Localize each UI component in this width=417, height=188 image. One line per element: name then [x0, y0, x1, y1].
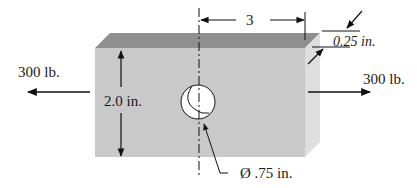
- plate-side-face: [305, 33, 320, 157]
- thickness-arrow-top: [347, 11, 362, 28]
- right-load: 300 lb.: [308, 71, 405, 92]
- width-label: 3: [246, 12, 254, 28]
- height-label: 2.0 in.: [104, 93, 142, 109]
- hole: [181, 85, 215, 119]
- left-load-label: 300 lb.: [18, 64, 60, 80]
- plate-top-face: [95, 33, 320, 48]
- right-load-label: 300 lb.: [363, 71, 405, 87]
- hole-circle: [181, 85, 215, 119]
- hole-diameter-label: Ø .75 in.: [240, 165, 293, 181]
- left-load: 300 lb.: [18, 64, 90, 92]
- thickness-label: 0.25 in.: [333, 34, 375, 49]
- plate-diagram: 2.0 in. 3 0.25 in. 300 lb. 300 lb. Ø .75…: [0, 0, 417, 188]
